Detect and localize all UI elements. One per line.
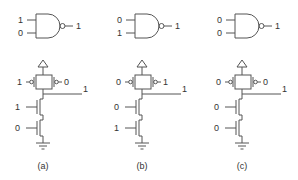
cmos-output-value: 1	[282, 84, 287, 94]
pmos-right-gate-value: 0	[64, 77, 69, 87]
gate-output: 1	[76, 21, 81, 31]
cmos-output-value: 1	[182, 84, 187, 94]
gate-input-b: 0	[18, 28, 23, 38]
gate-input-b: 1	[117, 28, 122, 38]
panel-a: 1 0 1 1 0 1 1 0 (a)	[15, 14, 88, 171]
panel-caption: (c)	[237, 161, 248, 171]
gate-output: 1	[275, 21, 280, 31]
panel-c: 0 0 1 0 0 1 0 0 (c)	[214, 14, 287, 171]
panel-b: 0 1 1 0 1 1 0 1 (b)	[114, 14, 187, 171]
cmos-output-value: 1	[83, 84, 88, 94]
pmos-left-gate-value: 1	[17, 77, 22, 87]
pmos-right-gate-value: 1	[163, 77, 168, 87]
panel-caption: (a)	[38, 161, 49, 171]
nmos-top-gate-value: 1	[15, 102, 20, 112]
pmos-left-gate-value: 0	[216, 77, 221, 87]
gate-input-b: 0	[217, 28, 222, 38]
gate-input-a: 0	[217, 15, 222, 25]
gate-output: 1	[175, 21, 180, 31]
nmos-top-gate-value: 0	[114, 102, 119, 112]
gate-input-a: 1	[18, 15, 23, 25]
nmos-bottom-gate-value: 0	[15, 123, 20, 133]
nmos-bottom-gate-value: 1	[114, 123, 119, 133]
nand-cmos-figure: 1 0 1 1 0 1 1 0 (a) 0 1 1 0 1 1 0 1 (b) …	[0, 0, 298, 180]
pmos-right-gate-value: 0	[263, 77, 268, 87]
nmos-top-gate-value: 0	[214, 102, 219, 112]
panel-caption: (b)	[137, 161, 148, 171]
pmos-left-gate-value: 0	[116, 77, 121, 87]
gate-input-a: 0	[117, 15, 122, 25]
nmos-bottom-gate-value: 0	[214, 123, 219, 133]
